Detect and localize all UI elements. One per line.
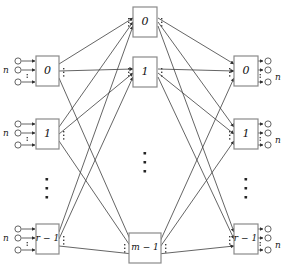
port-count-label-input-1: n xyxy=(3,129,9,138)
edges-middle-to-output xyxy=(158,18,234,254)
column-ellipses xyxy=(46,152,248,199)
bundle-ellipsis-marks xyxy=(63,18,230,253)
input-ports-module-1 xyxy=(15,121,35,148)
module-label-middle-m-1: m − 1 xyxy=(129,243,161,252)
port-count-label-input-r-1: n xyxy=(3,234,9,243)
edges-input-to-middle xyxy=(59,18,133,254)
module-label-middle-1: 1 xyxy=(133,66,157,77)
module-label-output-r-1: r − 1 xyxy=(230,234,261,243)
module-label-output-1: 1 xyxy=(234,128,258,139)
module-boxes xyxy=(36,7,258,263)
module-label-middle-0: 0 xyxy=(133,16,157,27)
port-count-label-input-0: n xyxy=(3,66,9,75)
input-ports-module-0 xyxy=(15,58,35,85)
port-count-label-output-r-1: n xyxy=(275,241,281,250)
module-label-input-0: 0 xyxy=(36,65,59,76)
module-label-output-0: 0 xyxy=(234,65,258,76)
port-count-label-output-0: n xyxy=(275,73,281,82)
port-count-label-output-1: n xyxy=(275,136,281,145)
output-ports-module-0 xyxy=(258,58,271,85)
output-ports-module-1 xyxy=(258,121,271,148)
diagram-canvas: 0 1 r − 1 0 1 m − 1 0 1 r − 1 n n n n n … xyxy=(0,0,285,273)
module-label-input-1: 1 xyxy=(36,128,59,139)
module-label-input-r-1: r − 1 xyxy=(32,234,63,243)
